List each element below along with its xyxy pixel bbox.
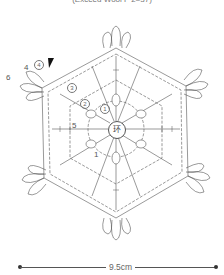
label-row-6: 6 bbox=[6, 74, 10, 82]
label-row-3-circled: 3 bbox=[67, 83, 77, 93]
measure-end-dot bbox=[214, 265, 218, 269]
label-row-4-circled: 4 bbox=[34, 60, 44, 70]
petal-cluster-top-left bbox=[20, 71, 44, 100]
petal-cluster-bottom bbox=[103, 218, 131, 240]
width-measurement: 9.5cm bbox=[18, 262, 218, 272]
label-row-5: 5 bbox=[72, 122, 76, 130]
start-triangle-icon bbox=[48, 58, 54, 68]
petal-cluster-bottom-left bbox=[22, 165, 46, 194]
label-row-2-circled: 2 bbox=[80, 99, 90, 109]
petal-cluster-top-right bbox=[184, 69, 208, 98]
measurement-label: 9.5cm bbox=[106, 262, 135, 272]
label-row-4: 4 bbox=[24, 64, 28, 72]
petal-cluster-bottom-right bbox=[186, 163, 210, 192]
petal-cluster-top bbox=[103, 26, 131, 48]
label-row-1: 1 bbox=[94, 151, 98, 159]
center-ring: 环 bbox=[108, 121, 126, 139]
label-row-1-circled: 1 bbox=[100, 104, 110, 114]
